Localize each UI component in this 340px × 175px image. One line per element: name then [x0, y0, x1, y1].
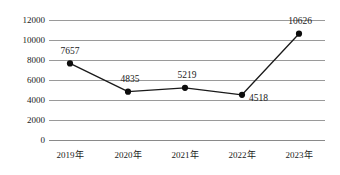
x-axis-tick-label: 2020年: [115, 151, 142, 160]
x-axis-tick-label: 2022年: [229, 151, 256, 160]
x-axis-tick-label: 2021年: [172, 151, 199, 160]
x-axis-tick-label: 2023年: [286, 151, 313, 160]
series-layer: [0, 0, 340, 175]
data-point-label: 4835: [121, 75, 140, 85]
data-point-label: 10626: [288, 17, 312, 27]
data-point-marker: [125, 89, 131, 95]
data-point-label: 5219: [178, 71, 197, 81]
data-point-label: 4518: [249, 94, 268, 104]
data-point-marker: [67, 60, 73, 66]
line-chart: 12000 10000 8000 6000 4000 2000 0 7657 4…: [0, 0, 340, 175]
data-point-marker: [182, 85, 188, 91]
data-point-label: 7657: [61, 47, 80, 57]
data-point-marker: [239, 92, 245, 98]
data-point-marker: [296, 31, 302, 37]
x-axis-tick-label: 2019年: [57, 151, 84, 160]
